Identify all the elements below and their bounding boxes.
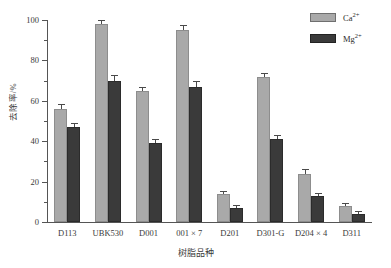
x-tick-label: D301-G bbox=[257, 228, 285, 238]
y-tick-major bbox=[42, 222, 47, 223]
bar-Mg2+-D113 bbox=[67, 127, 80, 222]
x-axis-line bbox=[47, 222, 372, 223]
y-tick-minor bbox=[44, 40, 47, 41]
y-tick-minor bbox=[44, 121, 47, 122]
y-tick-major bbox=[42, 141, 47, 142]
error-bar-cap bbox=[139, 87, 146, 88]
legend-swatch-Ca2+ bbox=[310, 13, 336, 22]
y-tick-minor bbox=[44, 161, 47, 162]
bar-Ca2+-D301-G bbox=[257, 77, 270, 222]
error-bar-cap bbox=[355, 211, 362, 212]
y-tick-minor bbox=[44, 81, 47, 82]
y-tick-label: 80 bbox=[13, 55, 39, 65]
error-bar-cap bbox=[152, 139, 159, 140]
y-tick-label: 100 bbox=[13, 15, 39, 25]
error-bar-cap bbox=[58, 104, 65, 105]
legend-label-Ca2+: Ca2+ bbox=[343, 12, 359, 22]
x-tick-label: D311 bbox=[342, 228, 361, 238]
x-tick-label: UBK530 bbox=[93, 228, 124, 238]
bar-Ca2+-D311 bbox=[339, 206, 352, 222]
y-tick-major bbox=[42, 20, 47, 21]
y-axis-line bbox=[47, 20, 48, 223]
bar-Ca2+-D113 bbox=[54, 109, 67, 222]
bar-Mg2+-UBK530 bbox=[108, 81, 121, 222]
y-tick-label: 40 bbox=[13, 136, 39, 146]
y-tick-major bbox=[42, 60, 47, 61]
error-bar-cap bbox=[111, 75, 118, 76]
bar-Ca2+-0017 bbox=[176, 30, 189, 222]
bar-Ca2+-UBK530 bbox=[95, 24, 108, 222]
bar-Mg2+-D301-G bbox=[270, 139, 283, 222]
legend-label-Mg2+: Mg2+ bbox=[343, 33, 362, 43]
bar-Mg2+-0017 bbox=[189, 87, 202, 222]
y-tick-major bbox=[42, 182, 47, 183]
x-tick-label: D001 bbox=[139, 228, 158, 238]
legend-item-Ca2+: Ca2+ bbox=[310, 12, 359, 22]
bar-Mg2+-D2044 bbox=[311, 196, 324, 222]
x-axis-title: 树脂品种 bbox=[0, 246, 391, 259]
error-bar-cap bbox=[71, 123, 78, 124]
y-tick-major bbox=[42, 101, 47, 102]
error-bar-cap bbox=[315, 193, 322, 194]
bar-Ca2+-D2044 bbox=[298, 174, 311, 222]
legend-swatch-Mg2+ bbox=[310, 34, 336, 43]
x-tick-label: D204 × 4 bbox=[295, 228, 327, 238]
bar-Mg2+-D311 bbox=[352, 214, 365, 222]
y-tick-label: 60 bbox=[13, 96, 39, 106]
y-tick-label: 0 bbox=[13, 217, 39, 227]
bar-chart: 去除率/% 树脂品种 020406080100D113UBK530D001001… bbox=[0, 0, 391, 268]
legend-label-charge: 2+ bbox=[355, 32, 362, 39]
error-bar-cap bbox=[302, 169, 309, 170]
bar-Mg2+-D201 bbox=[230, 208, 243, 222]
error-bar-cap bbox=[261, 73, 268, 74]
bar-Ca2+-D001 bbox=[136, 91, 149, 222]
y-tick-minor bbox=[44, 202, 47, 203]
legend-label-charge: 2+ bbox=[352, 11, 359, 18]
error-bar-cap bbox=[98, 20, 105, 21]
error-bar-cap bbox=[274, 135, 281, 136]
error-bar-cap bbox=[220, 191, 227, 192]
bar-Ca2+-D201 bbox=[217, 194, 230, 222]
error-bar-cap bbox=[233, 205, 240, 206]
x-tick-label: D113 bbox=[58, 228, 77, 238]
error-bar-cap bbox=[180, 25, 187, 26]
bar-Mg2+-D001 bbox=[149, 143, 162, 222]
legend-item-Mg2+: Mg2+ bbox=[310, 33, 362, 43]
legend-label-main: Mg bbox=[343, 34, 355, 44]
x-tick-label: D201 bbox=[220, 228, 239, 238]
error-bar-cap bbox=[342, 203, 349, 204]
y-tick-label: 20 bbox=[13, 177, 39, 187]
error-bar-cap bbox=[193, 81, 200, 82]
x-tick-label: 001 × 7 bbox=[176, 228, 202, 238]
